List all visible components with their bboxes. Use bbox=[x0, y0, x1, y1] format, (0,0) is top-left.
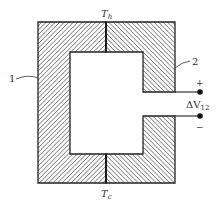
plus-sign: + bbox=[196, 78, 204, 88]
thermocouple-diagram: Th Tc 1 2 + ΔV12 − bbox=[0, 0, 219, 206]
label-2-leader bbox=[175, 61, 190, 68]
material-2-conductor-upper bbox=[106, 22, 175, 92]
positive-terminal-icon bbox=[197, 89, 203, 95]
material-1-label: 1 bbox=[9, 73, 15, 84]
negative-terminal-icon bbox=[197, 113, 203, 119]
voltage-label: ΔV12 bbox=[186, 99, 209, 112]
material-2-conductor-lower bbox=[106, 116, 175, 183]
hot-junction-label: Th bbox=[101, 8, 112, 21]
minus-sign: − bbox=[196, 122, 204, 132]
cold-junction-label: Tc bbox=[101, 188, 112, 201]
label-1-leader bbox=[16, 76, 38, 79]
material-2-label: 2 bbox=[192, 56, 198, 67]
material-1-conductor bbox=[38, 22, 106, 183]
